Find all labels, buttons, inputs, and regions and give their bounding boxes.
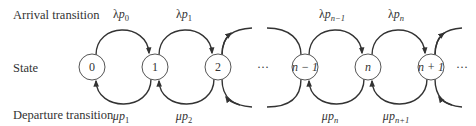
arrival-arc-n-1-n — [309, 30, 362, 55]
ellipsis-middle: ··· — [257, 60, 269, 74]
svg-text:n: n — [365, 60, 371, 74]
svg-text:n + 1: n + 1 — [418, 60, 444, 74]
departure-arc-1-0 — [96, 79, 151, 104]
arrival-arc-n-n+1 — [372, 30, 425, 55]
arrival-transition-label: Arrival transition — [13, 8, 100, 22]
arrival-arcs — [96, 28, 462, 55]
svg-text:2: 2 — [215, 60, 221, 74]
departure-arc-2-1 — [159, 79, 214, 104]
arrival-arc-2-out — [222, 28, 252, 55]
departure-arc-n+1-n — [372, 79, 427, 104]
departure-transition-label: Departure transition — [13, 108, 114, 122]
rate-mu-p1: μp1 — [112, 109, 129, 125]
departure-arc-n-n-1 — [309, 79, 364, 104]
departure-arc-in-2 — [222, 79, 252, 107]
rate-lambda-p1: λp1 — [176, 7, 192, 23]
state-node-2: 2 — [205, 54, 231, 80]
rate-lambda-p0: λp0 — [113, 7, 129, 23]
departure-arc-in-n+1 — [435, 79, 462, 107]
state-node-n-plus-1: n + 1 — [418, 54, 444, 80]
arrival-arc-0-1 — [96, 30, 149, 55]
state-label: State — [13, 61, 38, 75]
rate-mu-pn+1: μpn+1 — [382, 109, 409, 125]
arrival-rate-labels: λp0 λp1 λpn−1 λpn — [113, 7, 404, 23]
arrival-arc-n+1-out — [435, 28, 462, 55]
arrival-arc-1-2 — [159, 30, 212, 55]
state-node-0: 0 — [79, 54, 105, 80]
ellipsis-right: ··· — [456, 60, 468, 74]
arrival-arc-in-n-1 — [267, 28, 301, 55]
state-node-n-minus-1: n − 1 — [292, 54, 318, 80]
birth-death-diagram: Arrival transition State Departure trans… — [0, 0, 476, 126]
state-node-n: n — [355, 54, 381, 80]
rate-mu-p2: μp2 — [175, 109, 192, 125]
state-node-1: 1 — [142, 54, 168, 80]
departure-rate-labels: μp1 μp2 μpn μpn+1 — [112, 109, 409, 125]
rate-mu-pn: μpn — [321, 109, 338, 125]
svg-text:n − 1: n − 1 — [292, 60, 318, 74]
departure-arc-n-1-out — [267, 79, 301, 107]
departure-arcs — [96, 79, 462, 107]
svg-text:1: 1 — [152, 60, 158, 74]
svg-text:0: 0 — [89, 60, 95, 74]
rate-lambda-pn: λpn — [388, 7, 404, 23]
rate-lambda-pn-1: λpn−1 — [319, 7, 345, 23]
